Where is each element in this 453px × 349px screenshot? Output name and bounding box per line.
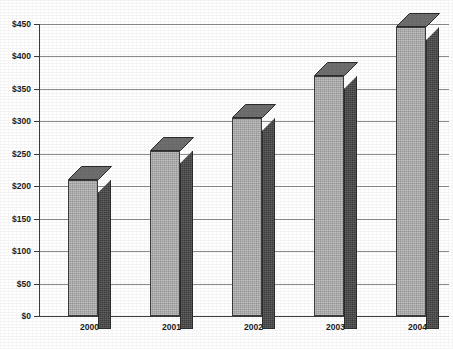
y-axis-tick-label: $100 [0,246,31,256]
y-axis-tick [34,56,39,57]
x-axis-label-2004: 2004 [388,322,448,332]
x-axis-label-2002: 2002 [224,322,284,332]
x-axis-label-2000: 2000 [60,322,120,332]
y-axis-tick [34,251,39,252]
bar-side-face [262,118,275,329]
y-axis-line [39,24,40,317]
y-axis-tick [34,121,39,122]
y-axis-tick-label: $350 [0,84,31,94]
y-axis-tick-label: $300 [0,116,31,126]
bar-front-face [150,151,180,316]
y-axis-tick [34,154,39,155]
y-axis-tick-label: $200 [0,181,31,191]
bar-side-face [180,151,193,329]
y-axis-tick-label: $150 [0,214,31,224]
y-axis-tick-label: $0 [0,311,31,321]
y-axis-tick [34,186,39,187]
bar-2004 [396,27,426,316]
bar-side-face [344,76,357,329]
bar-front-face [396,27,426,316]
bar-top-face [314,62,359,77]
y-axis-tick-label: $50 [0,279,31,289]
cut-off-caption [0,343,453,349]
bar-top-face [232,104,277,119]
bar-side-face [98,180,111,329]
y-axis-tick [34,284,39,285]
bar-side-face [426,27,439,329]
bar-front-face [232,118,262,316]
bar-2000 [68,180,98,316]
y-axis-tick [34,89,39,90]
y-axis-tick [34,316,39,317]
gridline [39,24,449,25]
y-axis-tick-label: $400 [0,51,31,61]
bar-front-face [68,180,98,316]
bar-front-face [314,76,344,316]
x-axis-label-2003: 2003 [306,322,366,332]
y-axis-tick [34,24,39,25]
gridline [39,89,449,90]
bar-2003 [314,76,344,316]
x-axis-label-2001: 2001 [142,322,202,332]
chart-figure: $450$400$350$300$250$200$150$100$50$0 20… [0,0,453,349]
bar-top-face [150,137,195,152]
bar-2002 [232,118,262,316]
y-axis-tick-label: $250 [0,149,31,159]
bar-top-face [396,13,441,28]
bar-2001 [150,151,180,316]
gridline [39,56,449,57]
y-axis-tick [34,219,39,220]
bar-top-face [68,166,113,181]
y-axis-tick-label: $450 [0,19,31,29]
plot-area [39,24,449,316]
